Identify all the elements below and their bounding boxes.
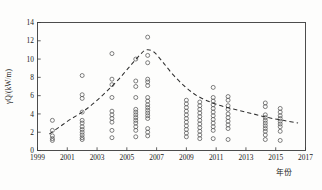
y-tick-label: 10 xyxy=(27,55,35,64)
chart-figure: 0246810121419992001200320052007200920112… xyxy=(0,0,322,190)
y-tick-label: 2 xyxy=(30,128,34,137)
y-tick-label: 8 xyxy=(30,73,34,82)
data-point xyxy=(278,125,282,129)
x-tick-label: 2003 xyxy=(90,153,105,162)
data-point xyxy=(211,137,215,141)
data-point xyxy=(134,85,138,89)
data-point xyxy=(134,95,138,99)
data-point xyxy=(211,85,215,89)
y-tick-label: 12 xyxy=(27,36,35,45)
x-tick-label: 2017 xyxy=(298,153,313,162)
data-point xyxy=(80,74,84,78)
data-point xyxy=(50,118,54,122)
x-tick-label: 2001 xyxy=(60,153,75,162)
data-point xyxy=(134,135,138,139)
x-tick-label: 1999 xyxy=(30,153,45,162)
data-point xyxy=(110,136,114,140)
data-point xyxy=(110,95,114,99)
x-tick-label: 2007 xyxy=(149,153,164,162)
trend-line xyxy=(49,50,298,134)
data-point xyxy=(110,52,114,56)
data-point xyxy=(278,138,282,142)
data-point xyxy=(146,53,150,57)
x-tick-label: 2005 xyxy=(119,153,134,162)
y-axis-label: γQ/(kW/m) xyxy=(4,69,13,105)
data-point xyxy=(146,61,150,65)
data-point xyxy=(134,79,138,83)
y-tick-label: 14 xyxy=(27,18,35,27)
plot-frame xyxy=(38,23,306,151)
data-point xyxy=(146,35,150,39)
x-tick-label: 2013 xyxy=(239,153,254,162)
data-point xyxy=(110,77,114,81)
scatter-plot: 0246810121419992001200320052007200920112… xyxy=(0,0,322,190)
x-tick-label: 2015 xyxy=(268,153,283,162)
data-point xyxy=(263,138,267,142)
data-point xyxy=(226,138,230,142)
y-tick-label: 6 xyxy=(30,91,34,100)
data-point xyxy=(110,128,114,132)
x-tick-label: 2011 xyxy=(209,153,224,162)
x-axis-label: 年份 xyxy=(276,167,292,177)
data-point xyxy=(146,117,150,121)
data-point xyxy=(278,129,282,133)
y-tick-label: 4 xyxy=(30,110,34,119)
x-tick-label: 2009 xyxy=(179,153,194,162)
